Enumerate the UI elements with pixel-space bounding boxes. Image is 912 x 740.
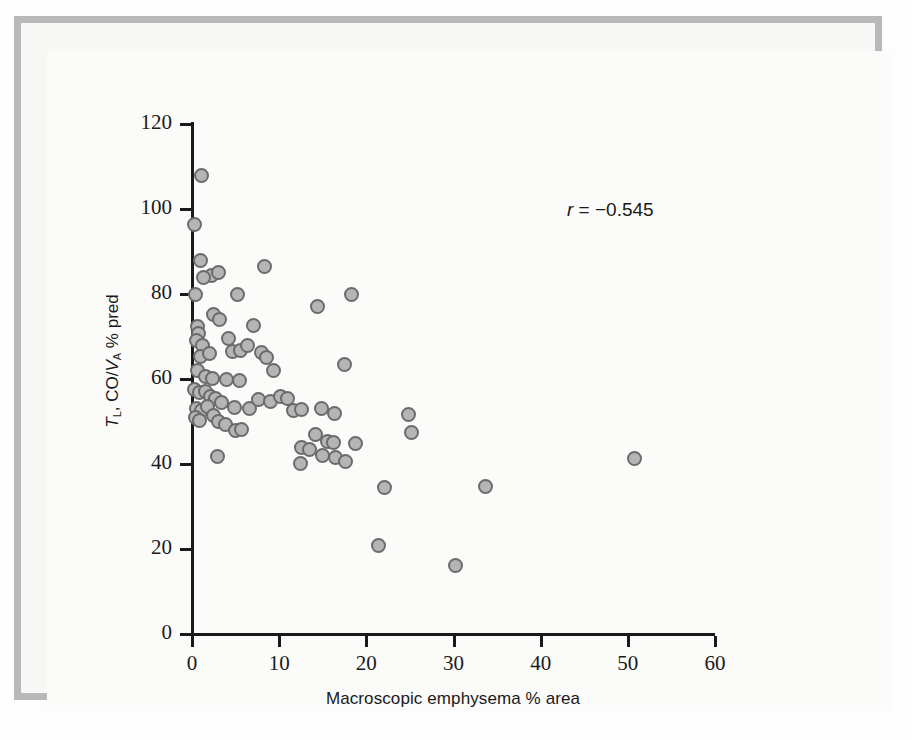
y-axis-tick	[180, 633, 191, 636]
x-axis-tick-label: 50	[598, 651, 658, 676]
y-axis-title-sub-l: L	[111, 411, 123, 417]
scatter-point	[194, 403, 209, 418]
scatter-point	[328, 450, 343, 465]
y-axis-tick	[180, 293, 191, 296]
y-axis-title-v: V	[103, 360, 122, 371]
scatter-point	[218, 417, 233, 432]
y-axis-tick	[180, 378, 191, 381]
x-axis-tick-label: 10	[249, 651, 309, 676]
scatter-point	[257, 259, 272, 274]
y-axis-tick-label: 120	[112, 110, 172, 135]
scatter-point	[294, 440, 309, 455]
scatter-point	[251, 392, 266, 407]
scatter-point	[273, 389, 288, 404]
x-axis-tick	[627, 636, 630, 647]
scatter-point	[193, 349, 208, 364]
scatter-point	[338, 454, 353, 469]
correlation-annotation: r = −0.545	[567, 199, 654, 221]
y-axis-line	[191, 122, 194, 636]
scatter-point	[194, 168, 209, 183]
scatter-point	[214, 395, 229, 410]
scatter-point	[206, 307, 221, 322]
scatter-point	[302, 442, 317, 457]
scatter-point	[240, 338, 255, 353]
scatter-point	[234, 422, 249, 437]
scatter-point	[286, 403, 301, 418]
scatter-point	[294, 402, 309, 417]
x-axis-tick	[540, 636, 543, 647]
data-points-layer	[47, 51, 891, 711]
y-axis-title-pred: % pred	[103, 294, 122, 353]
scatter-point	[202, 346, 217, 361]
scatter-point	[221, 331, 236, 346]
scatter-point	[233, 343, 248, 358]
scatter-point	[254, 345, 269, 360]
scatter-point	[227, 400, 242, 415]
scatter-point	[315, 448, 330, 463]
scatter-point	[348, 436, 363, 451]
y-axis-title-co: , CO/	[103, 372, 122, 412]
y-axis-title-sub-a: A	[111, 353, 123, 360]
scatter-point	[310, 299, 325, 314]
scatter-point	[195, 338, 210, 353]
scatter-point	[401, 407, 416, 422]
scatter-point	[196, 270, 211, 285]
scatter-point	[280, 391, 295, 406]
scatter-point	[259, 350, 274, 365]
y-axis-tick	[180, 463, 191, 466]
scatter-point	[192, 385, 207, 400]
scatter-point	[478, 479, 493, 494]
scatter-point	[219, 372, 234, 387]
y-axis-tick	[180, 123, 191, 126]
scatter-point	[198, 384, 213, 399]
y-axis-tick-label: 0	[112, 620, 172, 645]
scatter-plot-canvas: 120100806040200 0102030405060 r = −0.545…	[47, 51, 891, 711]
x-axis-tick-label: 20	[336, 651, 396, 676]
correlation-r-value: = −0.545	[573, 199, 653, 220]
x-axis-tick-label: 60	[685, 651, 745, 676]
figure-root: 120100806040200 0102030405060 r = −0.545…	[0, 0, 912, 740]
x-axis-tick-label: 0	[162, 651, 222, 676]
y-axis-tick	[180, 548, 191, 551]
scatter-point	[448, 558, 463, 573]
x-axis-tick	[191, 636, 194, 647]
scatter-point	[232, 373, 247, 388]
scatter-point	[326, 435, 341, 450]
x-axis-tick-label: 40	[511, 651, 571, 676]
scatter-point	[337, 357, 352, 372]
scatter-point	[205, 371, 220, 386]
scatter-point	[246, 318, 261, 333]
scatter-point	[293, 456, 308, 471]
scatter-point	[266, 363, 281, 378]
scatter-point	[344, 287, 359, 302]
x-axis-tick-label: 30	[424, 651, 484, 676]
scatter-point	[187, 382, 202, 397]
scatter-point	[206, 408, 221, 423]
scatter-point	[627, 451, 642, 466]
figure-frame: 120100806040200 0102030405060 r = −0.545…	[14, 16, 882, 700]
x-axis-tick	[453, 636, 456, 647]
scatter-point	[212, 312, 227, 327]
y-axis-tick-label: 100	[112, 195, 172, 220]
scatter-point	[210, 449, 225, 464]
scatter-point	[242, 401, 257, 416]
scatter-point	[203, 389, 218, 404]
x-axis-tick	[278, 636, 281, 647]
scatter-point	[327, 406, 342, 421]
scatter-point	[320, 434, 335, 449]
scatter-point	[204, 268, 219, 283]
scatter-point	[192, 413, 207, 428]
scatter-point	[314, 401, 329, 416]
x-axis-title: Macroscopic emphysema % area	[191, 689, 715, 709]
scatter-point	[208, 391, 223, 406]
scatter-point	[377, 480, 392, 495]
scatter-point	[211, 414, 226, 429]
scatter-point	[200, 399, 215, 414]
scatter-point	[187, 217, 202, 232]
scatter-point	[371, 538, 386, 553]
scatter-point	[308, 427, 323, 442]
scatter-point	[193, 253, 208, 268]
y-axis-title-t: T	[103, 417, 122, 427]
scatter-point	[230, 287, 245, 302]
scatter-point	[211, 265, 226, 280]
